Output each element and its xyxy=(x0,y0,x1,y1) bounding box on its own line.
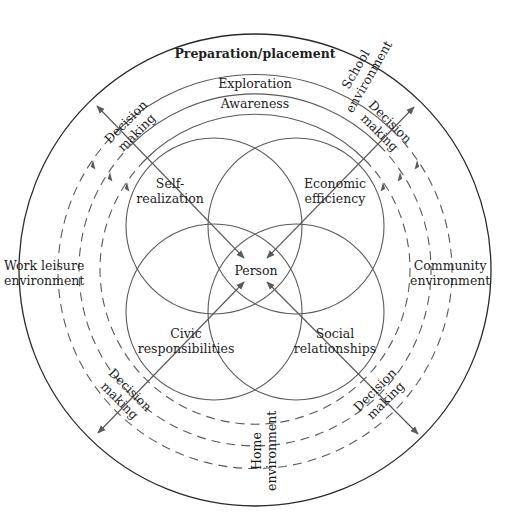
environment-work-leisure: Work leisure environment xyxy=(4,258,84,288)
domain-economic-efficiency-line2: efficiency xyxy=(304,191,366,206)
env-community-line1: Community xyxy=(410,258,490,273)
domain-self-realization-line2: realization xyxy=(136,191,203,206)
env-community-line2: environment xyxy=(410,273,490,288)
env-home-line1: Home xyxy=(249,411,264,491)
environment-home: Home environment xyxy=(249,411,279,491)
domain-economic-efficiency-line1: Economic xyxy=(304,176,366,191)
env-home-line2: environment xyxy=(264,411,279,491)
env-work-line2: environment xyxy=(4,273,84,288)
title-preparation-placement: Preparation/placement xyxy=(174,46,335,61)
domain-civic-line1: Civic xyxy=(138,326,235,341)
domain-social-line2: relationships xyxy=(294,341,376,356)
environment-community: Community environment xyxy=(410,258,490,288)
center-label-person: Person xyxy=(234,263,277,278)
ring-label-exploration: Exploration xyxy=(218,76,292,91)
domain-civic-line2: responsibilities xyxy=(138,341,235,356)
ring-label-awareness: Awareness xyxy=(221,96,289,111)
domain-social-line1: Social xyxy=(294,326,376,341)
env-work-line1: Work leisure xyxy=(4,258,84,273)
domain-self-realization-line1: Self- xyxy=(136,176,203,191)
